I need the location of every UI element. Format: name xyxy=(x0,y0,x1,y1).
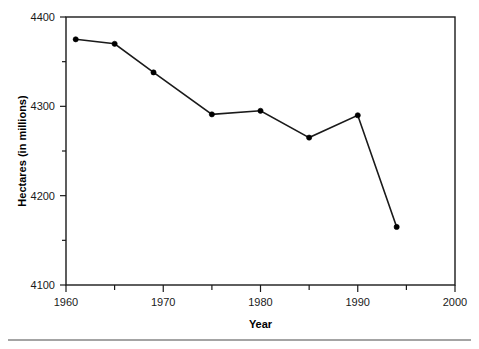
data-markers-group xyxy=(73,37,399,230)
x-axis-label-1980: 1980 xyxy=(248,296,272,308)
x-axis-label-1990: 1990 xyxy=(346,296,370,308)
data-point xyxy=(307,135,312,140)
data-line-hectares xyxy=(76,39,397,227)
y-axis-label-4100: 4100 xyxy=(31,279,55,291)
data-point xyxy=(209,112,214,117)
data-point xyxy=(355,113,360,118)
data-point xyxy=(258,108,263,113)
y-axis-title: Hectares (in millions) xyxy=(16,95,28,207)
y-axis-label-4400: 4400 xyxy=(31,11,55,23)
x-axis-label-2000: 2000 xyxy=(443,296,467,308)
x-axis-label-1960: 1960 xyxy=(54,296,78,308)
data-point xyxy=(151,70,156,75)
data-point xyxy=(73,37,78,42)
y-axis-ticks xyxy=(60,17,66,285)
data-point xyxy=(112,41,117,46)
x-axis-ticks xyxy=(66,285,455,292)
y-axis-label-4200: 4200 xyxy=(31,190,55,202)
data-point xyxy=(394,224,399,229)
chart-figure: 4400 4300 4200 4100 1960 1970 1980 1990 … xyxy=(0,0,479,349)
y-axis-label-4300: 4300 xyxy=(31,100,55,112)
plot-frame xyxy=(66,17,455,285)
line-chart-svg: 4400 4300 4200 4100 1960 1970 1980 1990 … xyxy=(0,0,479,349)
x-axis-title: Year xyxy=(249,318,273,330)
x-axis-label-1970: 1970 xyxy=(151,296,175,308)
